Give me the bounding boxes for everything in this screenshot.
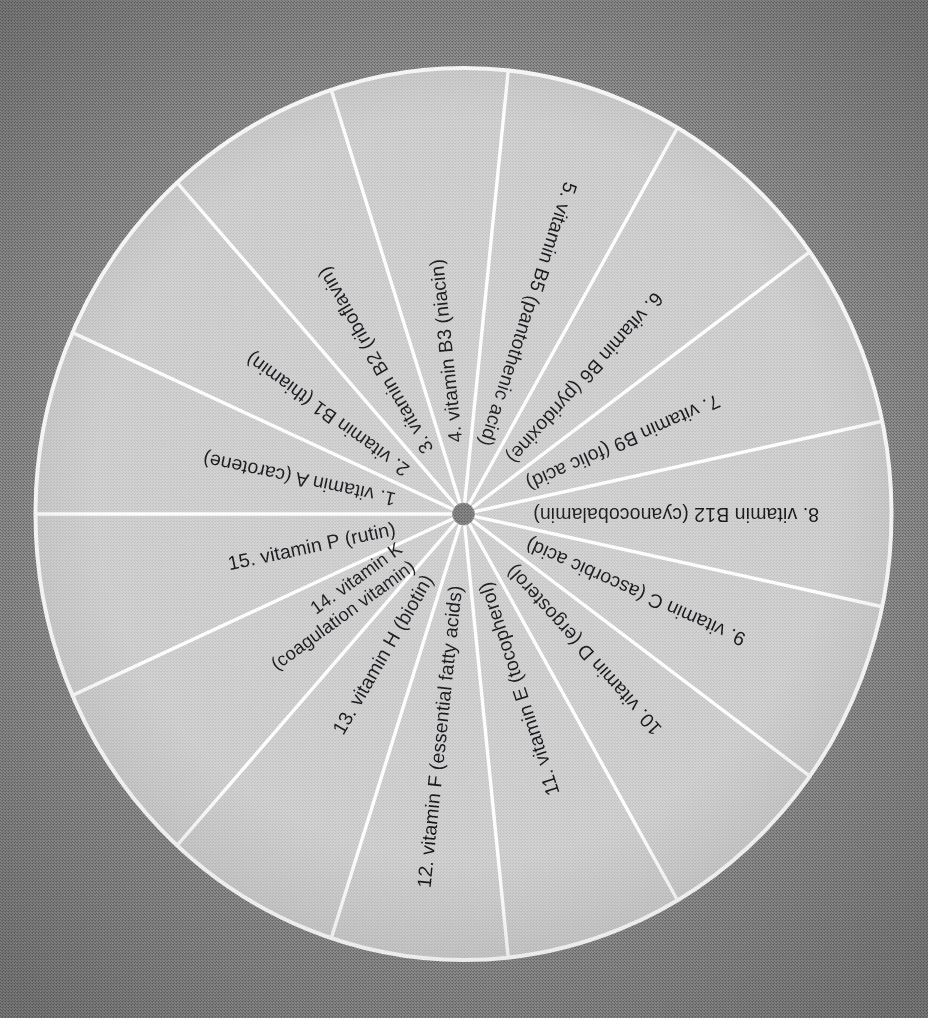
sector-label-text: 8. vitamin B12 (cyanocobalamin) [533, 504, 819, 526]
wheel-diagram: 1. vitamin A (carotene)1. vitamin A (car… [0, 0, 928, 1018]
sector-label-group: 8. vitamin B12 (cyanocobalamin)8. vitami… [533, 504, 819, 526]
vitamin-wheel-figure: 1. vitamin A (carotene)1. vitamin A (car… [0, 0, 928, 1018]
wheel-hub [453, 503, 475, 525]
